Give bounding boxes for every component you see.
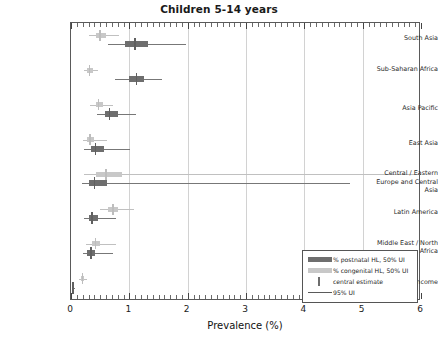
axis-tick (176, 295, 177, 299)
gridline-x (129, 23, 130, 299)
axis-tick (380, 23, 381, 27)
axis-tick (421, 23, 422, 29)
box-50ui (105, 111, 118, 117)
axis-tick (94, 23, 95, 27)
axis-tick (94, 295, 95, 299)
axis-tick (229, 295, 230, 299)
legend-item: central estimate (307, 276, 413, 287)
central-estimate-marker (98, 99, 100, 110)
axis-tick (194, 23, 195, 27)
axis-tick (83, 23, 84, 27)
legend-item: % postnatal HL, 50% UI (307, 254, 413, 265)
axis-tick (71, 293, 72, 299)
axis-tick (322, 23, 323, 27)
axis-tick (77, 23, 78, 27)
central-estimate-marker (82, 273, 84, 284)
axis-tick (188, 23, 189, 29)
legend-swatch-icon (308, 268, 332, 273)
x-tick-label: 3 (233, 304, 257, 314)
axis-tick (374, 23, 375, 27)
axis-tick (71, 23, 72, 29)
axis-tick (199, 295, 200, 299)
axis-tick (304, 23, 305, 29)
x-tick-label: 0 (58, 304, 82, 314)
axis-tick (141, 23, 142, 27)
axis-tick (118, 295, 119, 299)
axis-tick (269, 295, 270, 299)
central-estimate-marker (89, 65, 91, 76)
axis-tick (211, 295, 212, 299)
legend-vertical-bar-icon (318, 277, 320, 286)
axis-tick (252, 23, 253, 27)
axis-tick (363, 23, 364, 29)
axis-tick (369, 23, 370, 27)
x-tick-label: 5 (350, 304, 374, 314)
x-tick-label: 6 (408, 304, 432, 314)
axis-tick (106, 23, 107, 27)
axis-tick (398, 23, 399, 27)
axis-tick (205, 23, 206, 27)
axis-tick (229, 23, 230, 27)
gridline-x (188, 23, 189, 299)
x-tick-label: 2 (175, 304, 199, 314)
central-estimate-marker (89, 134, 91, 145)
axis-tick (334, 23, 335, 27)
box-50ui (91, 146, 104, 152)
axis-tick (351, 23, 352, 27)
axis-tick (153, 23, 154, 27)
chart-title: Children 5-14 years (0, 3, 438, 15)
axis-tick (345, 23, 346, 27)
legend-key-swatch-light (307, 265, 333, 276)
box-50ui (96, 172, 123, 177)
x-tick-label: 4 (291, 304, 315, 314)
whisker-95ui (83, 140, 108, 141)
axis-tick (252, 295, 253, 299)
x-tick-label: 1 (116, 304, 140, 314)
central-estimate-marker (95, 238, 97, 249)
axis-tick (205, 295, 206, 299)
central-estimate-marker (112, 204, 114, 215)
y-axis-label: Sub-Saharan Africa (372, 65, 438, 73)
axis-tick (281, 295, 282, 299)
axis-tick (258, 295, 259, 299)
chart-legend: % postnatal HL, 50% UI% congenital HL, 5… (302, 250, 418, 303)
axis-tick (118, 23, 119, 27)
axis-tick (182, 295, 183, 299)
axis-tick (240, 23, 241, 27)
axis-tick (135, 295, 136, 299)
axis-tick (129, 293, 130, 299)
axis-tick (275, 23, 276, 27)
y-axis-label: Central / Eastern Europe and Central Asi… (372, 169, 438, 194)
axis-tick (159, 295, 160, 299)
legend-line-icon (308, 292, 332, 293)
axis-tick (170, 23, 171, 27)
axis-tick (269, 23, 270, 27)
axis-tick (194, 295, 195, 299)
axis-tick (287, 23, 288, 27)
box-50ui (125, 41, 148, 47)
legend-swatch-icon (308, 257, 332, 262)
axis-tick (258, 23, 259, 27)
y-axis-label: Asia Pacific (372, 104, 438, 112)
central-estimate-marker (90, 247, 92, 259)
axis-tick (153, 295, 154, 299)
axis-tick (287, 295, 288, 299)
axis-tick (159, 23, 160, 27)
legend-label: 95% UI (333, 289, 355, 296)
y-axis-label: Latin America (372, 208, 438, 216)
central-estimate-marker (136, 73, 138, 85)
box-50ui (89, 180, 108, 186)
axis-tick (392, 23, 393, 27)
axis-tick (83, 295, 84, 299)
central-estimate-marker (134, 38, 136, 50)
axis-tick (217, 23, 218, 27)
central-estimate-marker (95, 143, 97, 155)
whisker-95ui (82, 183, 350, 184)
axis-tick (176, 23, 177, 27)
axis-tick (112, 23, 113, 27)
axis-tick (386, 23, 387, 27)
gridline-x (246, 23, 247, 299)
axis-tick (170, 295, 171, 299)
y-axis-label: South Asia (372, 34, 438, 42)
axis-tick (199, 23, 200, 27)
